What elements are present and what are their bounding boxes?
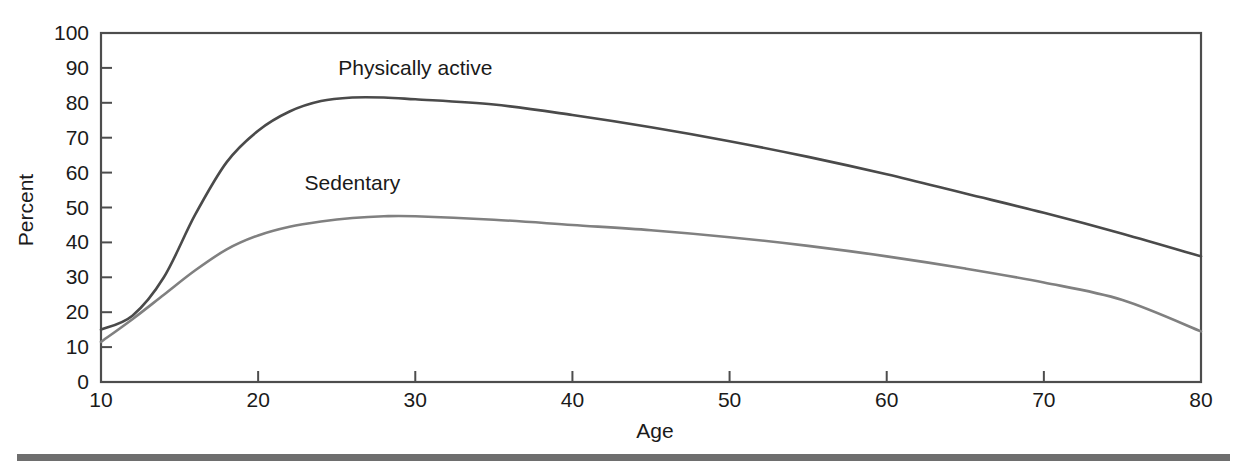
y-tick-label: 0 — [77, 370, 89, 393]
x-tick-label: 10 — [89, 388, 112, 411]
figure-container: 0102030405060708090100 1020304050607080 … — [0, 0, 1237, 470]
series-label-1: Sedentary — [305, 171, 401, 194]
y-tick-label: 80 — [66, 91, 89, 114]
y-tick-label: 40 — [66, 230, 89, 253]
y-tick-label: 70 — [66, 126, 89, 149]
y-axis-tick-labels: 0102030405060708090100 — [54, 21, 89, 393]
y-axis-title: Percent — [14, 174, 37, 247]
x-tick-label: 20 — [246, 388, 269, 411]
y-tick-label: 90 — [66, 56, 89, 79]
x-tick-label: 60 — [875, 388, 898, 411]
data-series-group — [101, 97, 1201, 342]
y-tick-label: 30 — [66, 265, 89, 288]
x-tick-label: 80 — [1189, 388, 1212, 411]
series-line-0 — [101, 97, 1201, 329]
x-tick-label: 50 — [718, 388, 741, 411]
series-annotations: Physically activeSedentary — [305, 56, 493, 194]
bottom-rule — [17, 454, 1230, 461]
series-line-1 — [101, 216, 1201, 342]
y-tick-label: 50 — [66, 196, 89, 219]
x-axis-ticks — [258, 371, 1044, 382]
y-tick-label: 60 — [66, 161, 89, 184]
y-tick-label: 100 — [54, 21, 89, 44]
y-tick-label: 10 — [66, 335, 89, 358]
y-tick-label: 20 — [66, 300, 89, 323]
x-tick-label: 40 — [561, 388, 584, 411]
x-tick-label: 30 — [404, 388, 427, 411]
x-axis-tick-labels: 1020304050607080 — [89, 388, 1212, 411]
plot-frame — [101, 33, 1201, 382]
x-tick-label: 70 — [1032, 388, 1055, 411]
x-axis-title: Age — [636, 419, 673, 442]
series-label-0: Physically active — [338, 56, 492, 79]
y-axis-ticks — [101, 68, 112, 347]
line-chart: 0102030405060708090100 1020304050607080 … — [0, 0, 1237, 470]
